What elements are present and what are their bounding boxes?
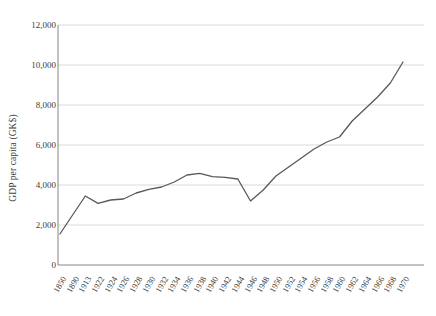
- gridlines: [58, 25, 424, 225]
- chart-container: GDP per capita (GK$) 02,0004,0006,0008,0…: [0, 0, 436, 316]
- plot-area: [0, 0, 436, 316]
- data-series-line: [60, 62, 403, 234]
